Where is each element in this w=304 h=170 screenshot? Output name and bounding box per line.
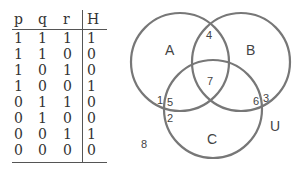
set-a-label: A [165,42,175,58]
set-b-label: B [246,42,255,58]
region-8-label: 8 [141,138,147,150]
set-c-label: C [207,131,217,147]
region-4-label: 4 [206,29,212,41]
venn-diagram: A B C U 1 2 3 4 5 6 7 8 [0,0,304,170]
region-6-label: 6 [253,95,259,107]
region-2-label: 2 [167,112,173,124]
region-7-label: 7 [207,75,213,87]
set-b-circle [192,13,290,111]
region-1-label: 1 [157,94,163,106]
region-5-label: 5 [167,96,173,108]
set-a-circle [131,13,229,111]
region-3-label: 3 [263,92,269,104]
universe-label: U [270,118,280,134]
